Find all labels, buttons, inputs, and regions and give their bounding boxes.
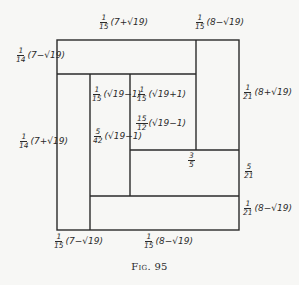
label-left-top: 114 (7−√19) [15,47,65,63]
figure-caption: Fig. 95 [0,261,299,272]
label-inner-d: 542 (√19−1) [92,128,142,144]
label-left-bottom: 114 (7+√19) [18,133,68,149]
label-inner-c: 1512 (√19−1) [136,115,186,131]
label-right-top: 121 (8+√19) [242,84,292,100]
label-right-bottom: 121 (8−√19) [242,200,292,216]
label-inner-e: 35 [188,152,196,168]
outer-square [57,40,239,230]
label-inner-a: 115 (√19−1) [91,86,141,102]
label-bottom-mid: 115 (8−√19) [143,233,193,249]
label-right-mid: 521 [243,163,256,179]
label-bottom-left: 115 (7−√19) [53,233,103,249]
label-top-right: 115 (8−√19) [194,14,244,30]
label-inner-b: 115 (√19+1) [136,86,186,102]
label-top-left: 115 (7+√19) [98,14,148,30]
